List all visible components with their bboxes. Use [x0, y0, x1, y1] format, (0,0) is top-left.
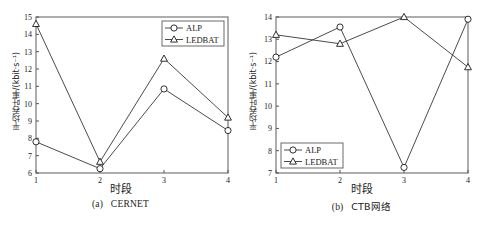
chart-plot-cernet: 67891011121314151234ALPLEDBAT [0, 0, 241, 195]
panel-caption-cernet: (a) CERNET [0, 199, 241, 209]
chart-panel-cernet: 67891011121314151234ALPLEDBAT 平均吞吐率/(kbi… [0, 0, 241, 225]
series-line-alp [36, 89, 228, 169]
y-tick-label: 7 [28, 152, 32, 161]
data-point-alp [33, 139, 39, 145]
legend-marker-alp [171, 25, 177, 31]
legend-label-ledbat: LEDBAT [305, 157, 338, 167]
caption-prefix-a: (a) [92, 199, 103, 209]
y-tick-label: 9 [28, 117, 32, 126]
y-tick-label: 10 [24, 100, 32, 109]
y-tick-label: 9 [268, 124, 272, 133]
data-point-alp [225, 127, 231, 133]
figure-container: 67891011121314151234ALPLEDBAT 平均吞吐率/(kbi… [0, 0, 482, 225]
y-tick-label: 11 [264, 80, 272, 89]
x-axis-label-cernet: 时段 [0, 180, 241, 196]
data-point-alp [97, 166, 103, 172]
data-point-alp [401, 164, 407, 170]
y-tick-label: 10 [264, 102, 272, 111]
data-point-ledbat [33, 20, 40, 26]
y-tick-label: 8 [268, 147, 272, 156]
chart-panel-ctb: 78910111213141234ALPLEDBAT 平均吞吐率/(kbit·s… [241, 0, 482, 225]
panel-caption-ctb: (b) CTB网络 [241, 199, 482, 213]
y-tick-label: 13 [24, 48, 32, 57]
data-point-alp [337, 24, 343, 30]
legend-label-alp: ALP [305, 145, 321, 155]
data-point-alp [273, 54, 279, 60]
data-point-ledbat [465, 64, 472, 70]
caption-name-b: CTB网络 [351, 201, 391, 212]
y-tick-label: 14 [24, 30, 32, 39]
y-axis-label-ctb: 平均吞吐率/(kbit·s⁻¹) [250, 52, 258, 130]
data-point-ledbat [97, 158, 104, 164]
y-tick-label: 15 [24, 13, 32, 22]
data-point-alp [161, 86, 167, 92]
y-tick-label: 12 [24, 65, 32, 74]
chart-plot-ctb: 78910111213141234ALPLEDBAT [241, 0, 482, 195]
data-point-alp [465, 16, 471, 22]
y-tick-label: 14 [264, 13, 272, 22]
chart-legend: ALPLEDBAT [162, 21, 224, 46]
legend-label-ledbat: LEDBAT [186, 35, 219, 45]
chart-legend: ALPLEDBAT [281, 143, 343, 168]
series-line-ledbat [276, 17, 468, 67]
y-tick-label: 7 [268, 169, 272, 178]
y-tick-label: 8 [28, 134, 32, 143]
legend-marker-alp [290, 147, 296, 153]
data-point-ledbat [161, 55, 168, 61]
data-point-ledbat [273, 31, 280, 37]
caption-name-a: CERNET [111, 199, 149, 209]
y-tick-label: 12 [264, 57, 272, 66]
y-axis-label-cernet: 平均吞吐率/(kbit·s⁻¹) [13, 52, 21, 130]
y-tick-label: 11 [24, 82, 32, 91]
x-axis-label-ctb: 时段 [241, 180, 482, 196]
caption-prefix-b: (b) [332, 202, 344, 212]
legend-label-alp: ALP [186, 23, 202, 33]
y-tick-label: 13 [264, 35, 272, 44]
y-tick-label: 6 [28, 169, 32, 178]
